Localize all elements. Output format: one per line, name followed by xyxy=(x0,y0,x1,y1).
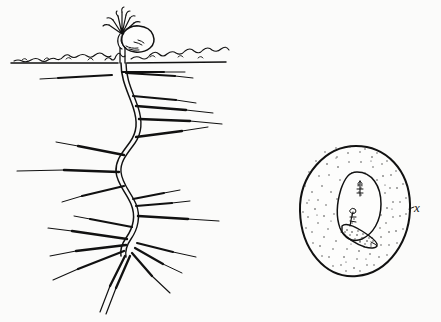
botanical-figure xyxy=(0,0,441,322)
seed-section-label: x xyxy=(414,200,420,216)
seed-cross-section-panel xyxy=(300,146,414,276)
lateral-roots xyxy=(17,72,222,314)
taproot xyxy=(116,63,141,257)
illustration-page: x xyxy=(0,0,441,322)
seedling-panel xyxy=(11,7,229,314)
seed-coat-remnant xyxy=(121,26,154,52)
